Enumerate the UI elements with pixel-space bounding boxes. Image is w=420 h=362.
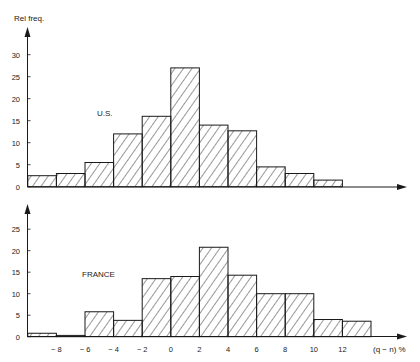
y-tick-label: 20 bbox=[12, 95, 20, 104]
x-tick-label: − 4 bbox=[108, 345, 119, 354]
france-histogram-bar bbox=[85, 312, 114, 337]
france-histogram-bar bbox=[28, 333, 57, 336]
france-x-ticks: − 8− 6− 4− 2024681012 bbox=[51, 345, 346, 354]
y-tick-label: 10 bbox=[12, 139, 20, 148]
y-tick-label: 5 bbox=[16, 161, 20, 170]
france-histogram-bar bbox=[56, 335, 85, 336]
y-tick-label: 30 bbox=[12, 51, 20, 60]
y-tick-label: 25 bbox=[12, 73, 20, 82]
france-x-axis-arrow-icon bbox=[397, 334, 407, 340]
us-histogram-bar bbox=[56, 174, 85, 187]
us-histogram-bar bbox=[228, 131, 257, 187]
y-tick-label: 10 bbox=[12, 290, 20, 299]
y-tick-label: 0 bbox=[16, 183, 20, 192]
france-histogram-bar bbox=[228, 275, 257, 336]
us-histogram-bar bbox=[142, 116, 171, 186]
y-axis-label: Rel freq. bbox=[14, 14, 44, 23]
us-panel: Rel freq. 051015202530 U.S. bbox=[12, 14, 407, 192]
france-histogram-bar bbox=[257, 294, 286, 337]
y-tick-label: 20 bbox=[12, 247, 20, 256]
france-y-axis-arrow-icon bbox=[25, 204, 31, 214]
x-axis-label: (q − n) % bbox=[373, 345, 406, 354]
us-histogram-bar bbox=[171, 68, 200, 187]
us-histogram-bar bbox=[85, 163, 114, 187]
x-tick-label: 0 bbox=[169, 345, 173, 354]
x-tick-label: 12 bbox=[338, 345, 346, 354]
x-tick-label: − 2 bbox=[137, 345, 148, 354]
x-tick-label: − 8 bbox=[51, 345, 62, 354]
france-panel-title: FRANCE bbox=[82, 270, 115, 279]
us-bars bbox=[28, 68, 343, 187]
x-tick-label: 10 bbox=[310, 345, 318, 354]
y-tick-label: 15 bbox=[12, 117, 20, 126]
x-tick-label: − 6 bbox=[80, 345, 91, 354]
france-histogram-bar bbox=[171, 277, 200, 337]
france-panel: 0510152025 − 8− 6− 4− 2024681012 FRANCE … bbox=[12, 204, 407, 354]
x-tick-label: 8 bbox=[283, 345, 287, 354]
us-panel-title: U.S. bbox=[97, 109, 113, 118]
y-tick-label: 0 bbox=[16, 333, 20, 342]
us-histogram-bar bbox=[114, 134, 143, 187]
x-tick-label: 4 bbox=[226, 345, 230, 354]
us-histogram-bar bbox=[314, 180, 343, 187]
y-tick-label: 5 bbox=[16, 311, 20, 320]
france-histogram-bar bbox=[342, 321, 371, 336]
us-histogram-bar bbox=[199, 125, 228, 187]
y-tick-label: 25 bbox=[12, 225, 20, 234]
us-y-axis-arrow-icon bbox=[25, 27, 31, 37]
france-bars bbox=[28, 247, 371, 336]
france-histogram-bar bbox=[142, 279, 171, 337]
histogram-figure: Rel freq. 051015202530 U.S. 0510152025 −… bbox=[0, 0, 420, 362]
x-tick-label: 2 bbox=[197, 345, 201, 354]
us-x-axis-arrow-icon bbox=[397, 184, 407, 190]
us-histogram-bar bbox=[257, 167, 286, 187]
x-tick-label: 6 bbox=[255, 345, 259, 354]
france-histogram-bar bbox=[199, 247, 228, 336]
france-histogram-bar bbox=[314, 320, 343, 337]
us-histogram-bar bbox=[285, 174, 314, 187]
y-tick-label: 15 bbox=[12, 268, 20, 277]
us-histogram-bar bbox=[28, 176, 57, 187]
france-histogram-bar bbox=[114, 320, 143, 336]
france-histogram-bar bbox=[285, 294, 314, 337]
